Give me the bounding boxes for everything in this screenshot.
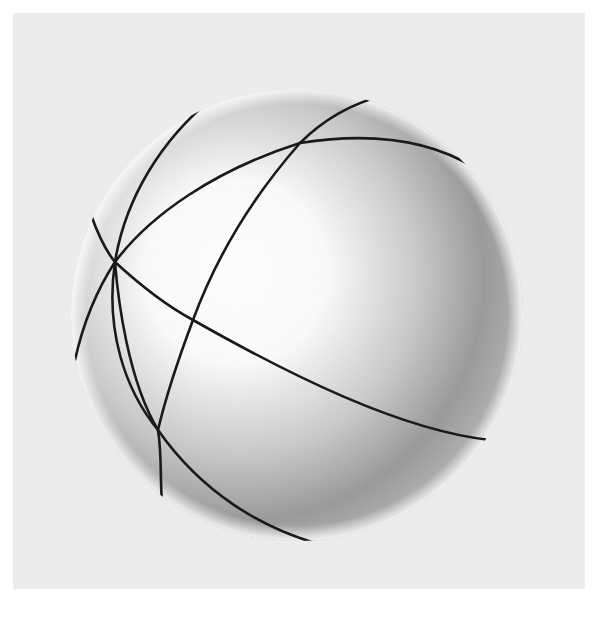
sphere-illustration [0, 0, 599, 619]
